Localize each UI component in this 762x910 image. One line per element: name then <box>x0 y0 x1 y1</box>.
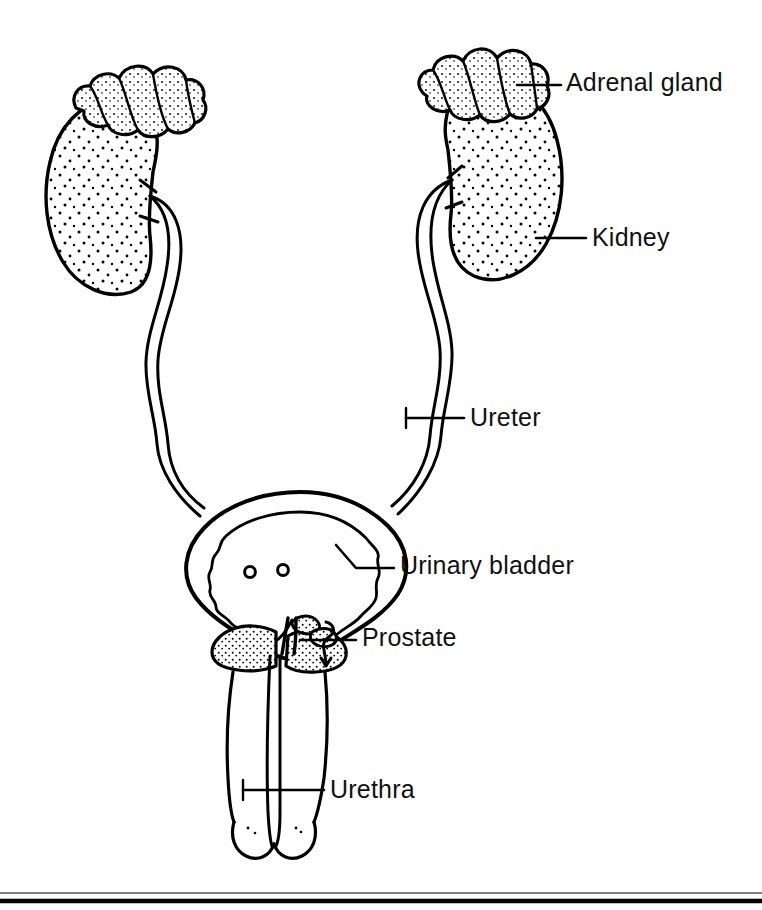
glans-stipple <box>247 827 303 835</box>
ureteral-orifice-left <box>245 567 256 578</box>
penis-shaft <box>227 672 327 858</box>
left-adrenal-gland <box>74 66 206 137</box>
penile-urethra <box>267 656 280 846</box>
label-urethra: Urethra <box>330 777 415 802</box>
footer-rules <box>0 893 762 901</box>
anatomical-figure: Adrenal gland Kidney Ureter Urinary blad… <box>0 0 762 910</box>
urinary-system-illustration <box>0 0 762 910</box>
label-urinary-bladder: Urinary bladder <box>400 553 574 578</box>
label-adrenal-gland: Adrenal gland <box>566 70 723 95</box>
ureteral-orifice-right <box>278 565 289 576</box>
label-kidney: Kidney <box>592 225 670 250</box>
label-ureter: Ureter <box>470 405 541 430</box>
label-prostate: Prostate <box>362 625 457 650</box>
